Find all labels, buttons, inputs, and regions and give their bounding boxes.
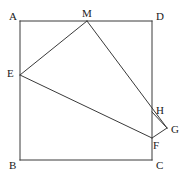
segment-EF — [20, 75, 152, 138]
geometry-figure: A M D E H G F B C — [0, 0, 188, 182]
vertex-label-E: E — [7, 68, 14, 79]
square-outline — [20, 21, 152, 160]
vertex-label-C: C — [156, 160, 163, 171]
vertex-label-A: A — [9, 11, 17, 22]
figure-canvas — [0, 0, 188, 182]
vertex-label-H: H — [156, 105, 164, 116]
fold-segments — [20, 21, 167, 138]
vertex-label-D: D — [156, 11, 164, 22]
vertex-label-F: F — [153, 140, 159, 151]
segment-EM — [20, 21, 87, 75]
vertex-label-M: M — [82, 8, 92, 19]
vertex-label-G: G — [171, 124, 179, 135]
segment-GF — [152, 128, 167, 138]
vertex-label-B: B — [9, 160, 16, 171]
segment-MG — [87, 21, 167, 128]
